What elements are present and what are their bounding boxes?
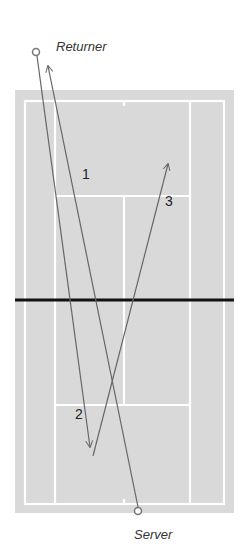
returner-label: Returner bbox=[56, 39, 107, 54]
server-label: Server bbox=[134, 527, 173, 542]
returner-position-icon bbox=[33, 49, 40, 56]
shot-3-label: 3 bbox=[165, 193, 173, 209]
shot-1-label: 1 bbox=[82, 166, 90, 182]
tennis-court-diagram: Returner Server 1 2 3 bbox=[0, 0, 249, 550]
server-position-icon bbox=[135, 508, 142, 515]
shot-2-label: 2 bbox=[75, 406, 83, 422]
